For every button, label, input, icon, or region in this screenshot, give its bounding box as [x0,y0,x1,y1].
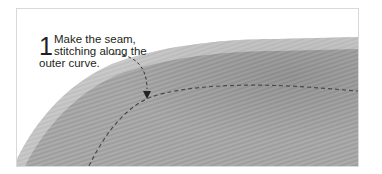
caption-line-3: outer curve. [39,57,100,69]
illustration-frame: 1 Make the seam, stitching along the out… [16,8,359,167]
step-number: 1 [39,34,53,59]
caption-line-1: Make the seam, [54,33,136,45]
caption-line-2: stitching along the [54,45,147,57]
